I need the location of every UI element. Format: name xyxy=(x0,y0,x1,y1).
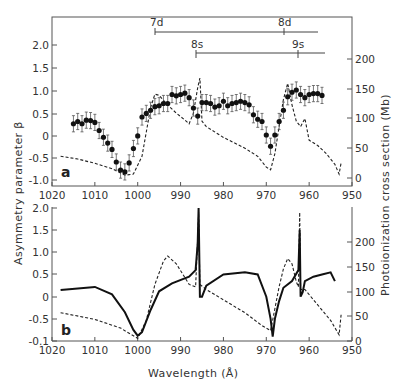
y-tick-label-left: 1.5 xyxy=(32,224,49,236)
data-point xyxy=(229,101,234,106)
series-lines: 7d 8d 8s 9s xyxy=(150,16,325,58)
y-tick-label-left: 0 xyxy=(42,130,49,142)
y-tick-label-right: 200 xyxy=(355,53,375,65)
y-tick-label-left: 0.5 xyxy=(32,108,49,120)
y-tick-label-right: 200 xyxy=(355,236,375,248)
data-point xyxy=(139,114,144,119)
y-tick-label-right: 50 xyxy=(355,310,368,322)
y-axis-title-right: Photoionization cross section (Mb) xyxy=(379,94,392,296)
x-tick-label: 980 xyxy=(213,189,233,201)
y-tick-label-right: 100 xyxy=(355,112,375,124)
data-point xyxy=(191,105,196,110)
data-point xyxy=(187,95,192,100)
y-tick-label-right: 50 xyxy=(355,142,368,154)
figure: 102010101000990980970960950 2.01.51.00.5… xyxy=(0,0,402,383)
panel-b-label: b xyxy=(61,322,71,338)
data-point xyxy=(152,104,157,109)
series-label-7d: 7d xyxy=(150,16,163,28)
data-point xyxy=(122,169,127,174)
x-tick-label: 1010 xyxy=(81,344,108,356)
panel-a-left-ticks: 2.01.51.00.50-0.5-1.0 xyxy=(29,39,58,186)
data-point xyxy=(131,146,136,151)
data-point xyxy=(272,132,277,137)
y-tick-label-left: -1.0 xyxy=(29,174,50,186)
data-point xyxy=(148,108,153,113)
data-point xyxy=(264,132,269,137)
x-tick-label: 1010 xyxy=(81,189,108,201)
x-tick-label: 970 xyxy=(256,344,276,356)
y-tick-label-left: 1.0 xyxy=(32,246,49,258)
panel-b-left-ticks: 2.01.51.00.50-0.5-0.1 xyxy=(29,202,58,347)
panel-b: 102010101000990980970960950 2.01.51.00.5… xyxy=(29,202,376,356)
y-tick-label-left: 0.5 xyxy=(32,268,49,280)
data-point xyxy=(114,159,119,164)
series-label-8d: 8d xyxy=(278,16,291,28)
y-tick-label-right: 100 xyxy=(355,286,375,298)
data-point xyxy=(281,108,286,113)
data-point xyxy=(221,99,226,104)
x-tick-label: 990 xyxy=(171,344,191,356)
data-point xyxy=(101,135,106,140)
data-point xyxy=(97,128,102,133)
x-tick-label: 1000 xyxy=(124,344,151,356)
data-point xyxy=(302,95,307,100)
y-tick-label-right: 0 xyxy=(355,335,362,347)
data-point xyxy=(319,93,324,98)
panel-b-right-ticks: 200150100500 xyxy=(347,236,375,347)
data-point xyxy=(109,147,114,152)
panel-a-right-ticks: 200150100500 xyxy=(347,53,375,184)
data-point xyxy=(105,141,110,146)
data-point xyxy=(251,112,256,117)
data-point xyxy=(259,119,264,124)
x-tick-label: 990 xyxy=(171,189,191,201)
x-tick-label: 960 xyxy=(299,344,319,356)
data-point xyxy=(268,144,273,149)
data-point xyxy=(307,92,312,97)
data-point xyxy=(182,91,187,96)
data-point xyxy=(144,111,149,116)
panel-a-label: a xyxy=(61,164,70,180)
y-tick-label-right: 150 xyxy=(355,261,375,273)
panel-b-x-ticks: 102010101000990980970960950 xyxy=(39,337,362,356)
data-point xyxy=(298,92,303,97)
y-tick-label-left: 2.0 xyxy=(32,39,49,51)
y-tick-label-left: -0.5 xyxy=(29,152,50,164)
data-point xyxy=(277,119,282,124)
panel-b-beta-curve xyxy=(61,208,335,337)
y-tick-label-left: -0.1 xyxy=(29,335,50,347)
data-point xyxy=(208,101,213,106)
data-point xyxy=(165,101,170,106)
data-point xyxy=(79,121,84,126)
data-point xyxy=(217,103,222,108)
panel-a-beta-points xyxy=(71,82,325,180)
x-tick-label: 1020 xyxy=(39,189,66,201)
y-tick-label-right: 0 xyxy=(355,172,362,184)
y-tick-label-left: -0.5 xyxy=(29,313,50,325)
data-point xyxy=(127,160,132,165)
x-tick-label: 950 xyxy=(342,189,362,201)
x-tick-label: 970 xyxy=(256,189,276,201)
x-tick-label: 1000 xyxy=(124,189,151,201)
data-point xyxy=(285,94,290,99)
panel-a-x-ticks: 102010101000990980970960950 xyxy=(39,182,362,201)
y-tick-label-left: 1.0 xyxy=(32,85,49,97)
series-label-9s: 9s xyxy=(292,38,304,50)
y-tick-label-right: 150 xyxy=(355,83,375,95)
series-label-8s: 8s xyxy=(191,38,203,50)
panel-a: 102010101000990980970960950 2.01.51.00.5… xyxy=(29,16,376,201)
data-point xyxy=(247,102,252,107)
x-tick-label: 980 xyxy=(213,344,233,356)
y-tick-label-left: 1.5 xyxy=(32,62,49,74)
y-axis-title-left: Asymmetry parameter β xyxy=(12,121,25,265)
data-point xyxy=(135,133,140,138)
y-tick-label-left: 2.0 xyxy=(32,202,49,214)
data-point xyxy=(294,87,299,92)
y-tick-label-left: 0 xyxy=(42,291,49,303)
x-axis-title: Wavelength (Å) xyxy=(148,367,238,380)
data-point xyxy=(204,100,209,105)
data-point xyxy=(195,114,200,119)
data-point xyxy=(92,120,97,125)
x-tick-label: 960 xyxy=(299,189,319,201)
